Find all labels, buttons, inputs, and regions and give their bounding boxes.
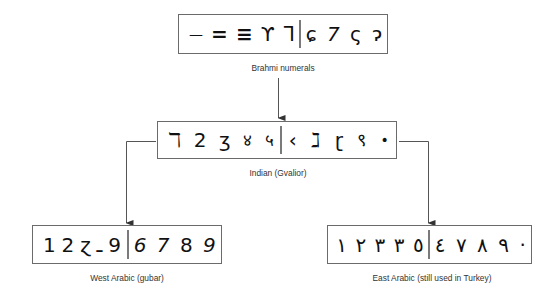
glyph: ɂ [372, 24, 382, 44]
glyph: ɕ [306, 24, 317, 44]
glyph: 9 [108, 235, 121, 255]
label-west-arabic: West Arabic (gubar) [70, 272, 184, 283]
glyph: = [211, 24, 228, 44]
glyph: ‹ [289, 130, 297, 150]
glyph: ५ [265, 132, 274, 149]
glyph: ٣ [394, 235, 405, 255]
glyph: ≡ [236, 24, 253, 44]
glyph: ٤ [435, 235, 446, 255]
glyph: ٩ [498, 235, 509, 255]
glyph: 1 [43, 235, 56, 255]
node-brahmi: — = ≡ ϒ ᒣ ɕ 7 ς ɂ [178, 14, 388, 54]
indian-units-6-0: ‹ ℷ ɽ ९ • [282, 122, 397, 158]
label-east-arabic: East Arabic (still used in Turkey) [362, 272, 503, 283]
label-indian: Indian (Gvalior) [225, 167, 331, 178]
east-arabic-units-6-0: ٤ ٧ ٨ ٩ · [430, 226, 532, 263]
label-brahmi: Brahmi numerals [235, 62, 332, 73]
brahmi-units-1-5: — = ≡ ϒ ᒣ [179, 15, 299, 53]
node-east-arabic: ١ ٢ ٣ ٣ ٥ ٤ ٧ ٨ ٩ · [327, 225, 532, 264]
glyph: · [519, 235, 525, 255]
glyph: ϒ [261, 24, 275, 44]
glyph: 7 [157, 235, 170, 255]
brahmi-units-6-9: ɕ 7 ς ɂ [301, 15, 388, 53]
glyph: ٨ [477, 235, 488, 255]
glyph: 2 [62, 235, 75, 255]
glyph: 9 [203, 235, 216, 255]
glyph: ٢ [355, 235, 366, 255]
glyph: ℷ [311, 130, 320, 150]
glyph: ʒ [219, 130, 231, 150]
west-arabic-units-6-9: 6 7 8 9 [129, 226, 222, 263]
glyph: — [189, 27, 203, 41]
west-arabic-units-1-5: 1 2 ɀ ـ 9 [33, 226, 127, 263]
glyph: ـ [97, 235, 103, 255]
node-west-arabic: 1 2 ɀ ـ 9 6 7 8 9 [32, 225, 222, 264]
indian-units-1-5: ℸ 2 ʒ ४ ५ [158, 122, 280, 158]
glyph: ᒣ [283, 24, 295, 44]
glyph: 8 [180, 235, 193, 255]
arrow-indian-to-west-arabic [127, 142, 157, 224]
glyph: 7 [327, 24, 340, 44]
glyph: ٥ [413, 235, 424, 255]
glyph: ٧ [456, 235, 467, 255]
glyph: ١ [336, 235, 347, 255]
glyph: ४ [243, 132, 252, 149]
glyph: ɀ [80, 235, 91, 255]
node-indian: ℸ 2 ʒ ४ ५ ‹ ℷ ɽ ९ • [157, 121, 397, 159]
glyph: 2 [194, 130, 207, 150]
glyph: ς [350, 24, 362, 44]
glyph: ɽ [335, 130, 343, 150]
glyph: • [381, 133, 389, 147]
east-arabic-units-1-5: ١ ٢ ٣ ٣ ٥ [328, 226, 428, 263]
glyph: ९ [357, 131, 366, 149]
glyph: 6 [134, 235, 147, 255]
glyph: ℸ [168, 130, 181, 150]
glyph: ٣ [375, 235, 386, 255]
arrow-indian-to-east-arabic [399, 142, 429, 224]
